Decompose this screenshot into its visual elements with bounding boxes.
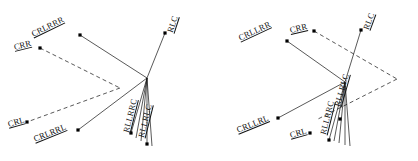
node-dot <box>163 31 166 34</box>
left-dashed-edges <box>27 48 120 122</box>
node-dot <box>327 138 330 141</box>
right-diagram-edges <box>209 0 418 161</box>
node-dot <box>276 116 279 119</box>
node-dot <box>338 117 341 120</box>
tree-edge-dashed <box>27 88 120 122</box>
node-dot <box>25 120 28 123</box>
node-dot <box>312 29 315 32</box>
tree-edge-dashed <box>314 31 397 79</box>
tree-edge-solid <box>80 35 147 78</box>
left-diagram-panel: CRLRRRCRRRLCCRLCRLRRLRLLRRCRLLRLC <box>0 0 209 161</box>
node-dot <box>359 28 362 31</box>
node-dot <box>145 142 148 145</box>
node-dot <box>38 46 41 49</box>
node-dot <box>285 39 288 42</box>
node-dot <box>308 131 311 134</box>
tree-edge-solid <box>287 41 345 82</box>
node-dot <box>76 128 79 131</box>
right-diagram-panel: CRLLRRCRRRLCCRLLRLCRLRLLRRCRLLRLC <box>209 0 418 161</box>
node-dot <box>78 33 81 36</box>
figure-canvas: CRLRRRCRRRLCCRLCRLRRLRLLRRCRLLRLC CRLLRR… <box>0 0 418 161</box>
tree-edge-solid <box>147 33 165 78</box>
left-diagram-edges <box>0 0 209 161</box>
tree-edge-dashed <box>40 48 120 88</box>
